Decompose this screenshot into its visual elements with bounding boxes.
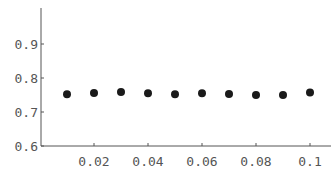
data-point xyxy=(63,90,71,98)
x-tick-label: 0.06 xyxy=(186,154,217,169)
data-point xyxy=(306,89,314,97)
data-point xyxy=(144,89,152,97)
data-point xyxy=(225,90,233,98)
x-tick-label: 0.08 xyxy=(240,154,271,169)
x-tick-label: 0.04 xyxy=(132,154,163,169)
data-point xyxy=(117,88,125,96)
data-points xyxy=(63,88,314,99)
scatter-chart: 0.60.70.80.9 0.020.040.060.080.1 xyxy=(0,0,331,173)
x-axis-ticks: 0.020.040.060.080.1 xyxy=(78,143,321,169)
axes xyxy=(41,8,331,146)
x-tick-label: 0.1 xyxy=(298,154,321,169)
data-point xyxy=(171,90,179,98)
data-point xyxy=(198,89,206,97)
y-tick-label: 0.7 xyxy=(15,105,38,120)
y-tick-label: 0.6 xyxy=(15,139,38,154)
x-tick-label: 0.02 xyxy=(78,154,109,169)
y-tick-label: 0.8 xyxy=(15,71,38,86)
data-point xyxy=(90,89,98,97)
y-tick-label: 0.9 xyxy=(15,37,38,52)
data-point xyxy=(252,91,260,99)
data-point xyxy=(279,91,287,99)
y-axis-ticks: 0.60.70.80.9 xyxy=(15,37,44,154)
